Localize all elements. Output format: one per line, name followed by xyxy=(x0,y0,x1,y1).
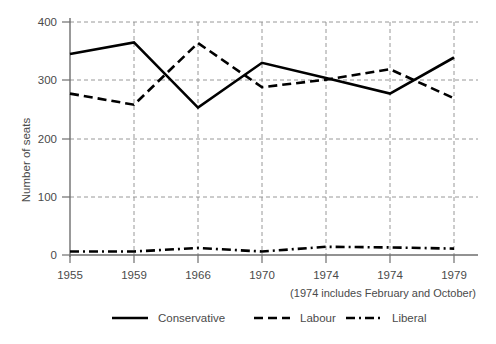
x-tick-label-1974-feb: 1974 xyxy=(313,269,339,281)
y-tick-label-0: 0 xyxy=(51,249,57,261)
legend-item-conservative: Conservative xyxy=(112,312,225,324)
x-tick-label-1979: 1979 xyxy=(441,269,467,281)
legend-label-conservative: Conservative xyxy=(158,312,225,324)
y-axis-title: Number of seats xyxy=(20,118,32,203)
chart-note: (1974 includes February and October) xyxy=(290,287,476,299)
legend-item-liberal: Liberal xyxy=(346,312,427,324)
horizontal-gridlines xyxy=(70,22,478,197)
y-tick-label-400: 400 xyxy=(38,16,57,28)
line-chart: 400 300 200 100 0 1955 1959 1966 1970 19… xyxy=(0,0,496,344)
x-tick-label-1955: 1955 xyxy=(57,269,83,281)
x-tick-label-1970: 1970 xyxy=(249,269,275,281)
y-tick-label-100: 100 xyxy=(38,191,57,203)
y-tick-label-200: 200 xyxy=(38,133,57,145)
y-tick-label-300: 300 xyxy=(38,74,57,86)
y-tick-labels: 400 300 200 100 0 xyxy=(38,16,57,261)
x-tick-labels: 1955 1959 1966 1970 1974 1974 1979 xyxy=(57,269,467,281)
legend-item-labour: Labour xyxy=(254,312,336,324)
x-tick-label-1966: 1966 xyxy=(185,269,211,281)
chart-legend: Conservative Labour Liberal xyxy=(112,312,427,324)
y-tick-marks xyxy=(62,22,70,255)
legend-label-labour: Labour xyxy=(300,312,336,324)
x-tick-label-1959: 1959 xyxy=(121,269,147,281)
chart-container: 400 300 200 100 0 1955 1959 1966 1970 19… xyxy=(0,0,496,344)
x-tick-marks xyxy=(70,255,454,263)
x-tick-label-1974-oct: 1974 xyxy=(377,269,403,281)
axes xyxy=(70,18,478,257)
legend-label-liberal: Liberal xyxy=(392,312,427,324)
